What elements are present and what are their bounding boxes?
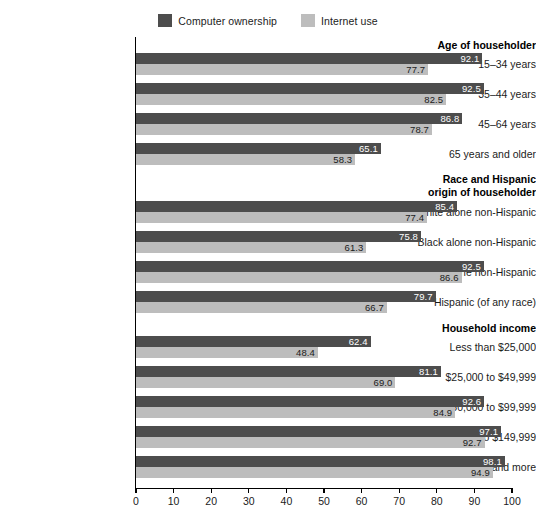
group-header-row: Race and Hispanicorigin of householder	[0, 173, 536, 201]
x-tick-label: 70	[393, 495, 405, 507]
bar-group-row: White alone non-Hispanic85.477.4	[0, 201, 536, 223]
bar-computer-ownership: 81.1	[136, 366, 441, 377]
bar-computer-ownership: 92.1	[136, 53, 482, 64]
group-header-label: Race and Hispanicorigin of householder	[405, 173, 536, 198]
bar-value-label: 85.4	[435, 202, 454, 212]
bar-value-label: 82.5	[424, 95, 443, 105]
x-tick-mark	[248, 488, 249, 493]
bar-group-row: $25,000 to $49,99981.169.0	[0, 366, 536, 388]
bar-computer-ownership: 98.1	[136, 456, 505, 467]
x-tick-mark	[173, 488, 174, 493]
bar-pair: 62.448.4	[136, 336, 371, 358]
x-tick-mark	[511, 488, 512, 493]
bar-group-row: Black alone non-Hispanic75.861.3	[0, 231, 536, 253]
group-header-label: Age of householder	[405, 39, 536, 51]
bar-internet-use: 58.3	[136, 154, 355, 165]
bar-value-label: 92.5	[462, 84, 481, 94]
bar-value-label: 92.5	[462, 262, 481, 272]
bar-value-label: 66.7	[365, 303, 384, 313]
bar-group-row: Less than $25,00062.448.4	[0, 336, 536, 358]
bar-group-row: Hispanic (of any race)79.766.7	[0, 291, 536, 313]
bar-pair: 81.169.0	[136, 366, 441, 388]
bar-value-label: 62.4	[349, 337, 368, 347]
bar-internet-use: 86.6	[136, 272, 462, 283]
bar-value-label: 92.7	[463, 438, 482, 448]
bar-internet-use: 69.0	[136, 377, 395, 388]
bar-internet-use: 82.5	[136, 94, 446, 105]
bar-computer-ownership: 79.7	[136, 291, 436, 302]
bar-value-label: 65.1	[359, 144, 378, 154]
bar-pair: 85.477.4	[136, 201, 457, 223]
bar-value-label: 97.1	[479, 427, 498, 437]
bar-computer-ownership: 97.1	[136, 426, 501, 437]
bar-group-row: Asian alone non-Hispanic92.586.6	[0, 261, 536, 283]
bar-computer-ownership: 92.6	[136, 396, 484, 407]
bar-internet-use: 92.7	[136, 437, 485, 448]
bar-value-label: 92.6	[462, 397, 481, 407]
bar-value-label: 94.9	[471, 468, 490, 478]
group-header-row: Household income	[0, 321, 536, 336]
bar-value-label: 58.3	[333, 155, 352, 165]
bar-computer-ownership: 65.1	[136, 143, 381, 154]
bar-computer-ownership: 75.8	[136, 231, 421, 242]
x-tick-mark	[399, 488, 400, 493]
bar-value-label: 92.1	[460, 54, 479, 64]
bar-value-label: 81.1	[419, 367, 438, 377]
bar-internet-use: 66.7	[136, 302, 387, 313]
bar-value-label: 48.4	[296, 348, 315, 358]
x-tick-label: 80	[431, 495, 443, 507]
bar-group-row: $50,000 to $99,99992.684.9	[0, 396, 536, 418]
bar-computer-ownership: 92.5	[136, 261, 484, 272]
bar-group-row: $150,000 and more98.194.9	[0, 456, 536, 478]
bar-value-label: 86.6	[440, 273, 459, 283]
bar-internet-use: 84.9	[136, 407, 455, 418]
bar-internet-use: 94.9	[136, 467, 493, 478]
category-label: Black alone non-Hispanic	[405, 236, 536, 248]
bar-group-row: $100,000 to $149,99997.192.7	[0, 426, 536, 448]
bar-pair: 98.194.9	[136, 456, 505, 478]
bar-value-label: 75.8	[399, 232, 418, 242]
bar-value-label: 61.3	[345, 243, 364, 253]
bar-internet-use: 77.7	[136, 64, 428, 75]
bar-value-label: 98.1	[483, 457, 502, 467]
x-tick-label: 20	[205, 495, 217, 507]
bar-group-row: 65 years and older65.158.3	[0, 143, 536, 165]
x-tick-mark	[436, 488, 437, 493]
plot-area: Age of householder15–34 years92.177.735–…	[0, 0, 536, 525]
x-tick-label: 40	[281, 495, 293, 507]
bar-pair: 92.684.9	[136, 396, 484, 418]
bar-computer-ownership: 62.4	[136, 336, 371, 347]
group-header-label: Household income	[405, 322, 536, 334]
x-tick-mark	[361, 488, 362, 493]
group-header-row: Age of householder	[0, 38, 536, 53]
x-tick-label: 90	[469, 495, 481, 507]
bar-chart: Computer ownershipInternet use Age of ho…	[0, 0, 536, 525]
bar-internet-use: 77.4	[136, 212, 427, 223]
bar-computer-ownership: 86.8	[136, 113, 462, 124]
bar-pair: 92.177.7	[136, 53, 482, 75]
bar-pair: 79.766.7	[136, 291, 436, 313]
bar-internet-use: 78.7	[136, 124, 432, 135]
x-tick-mark	[211, 488, 212, 493]
bar-value-label: 69.0	[374, 378, 393, 388]
x-tick-mark	[135, 488, 136, 493]
bar-internet-use: 48.4	[136, 347, 318, 358]
x-tick-label: 50	[318, 495, 330, 507]
bar-pair: 97.192.7	[136, 426, 501, 448]
x-tick-mark	[474, 488, 475, 493]
bar-pair: 75.861.3	[136, 231, 421, 253]
x-tick-label: 10	[168, 495, 180, 507]
bar-value-label: 77.4	[405, 213, 424, 223]
bar-pair: 92.586.6	[136, 261, 484, 283]
bar-pair: 65.158.3	[136, 143, 381, 165]
bar-computer-ownership: 92.5	[136, 83, 484, 94]
bar-computer-ownership: 85.4	[136, 201, 457, 212]
category-label: 65 years and older	[405, 148, 536, 160]
bar-value-label: 77.7	[406, 65, 425, 75]
x-tick-mark	[323, 488, 324, 493]
x-tick-label: 0	[133, 495, 139, 507]
bar-value-label: 78.7	[410, 125, 429, 135]
bar-group-row: 15–34 years92.177.7	[0, 53, 536, 75]
bar-value-label: 79.7	[414, 292, 433, 302]
bar-value-label: 84.9	[433, 408, 452, 418]
